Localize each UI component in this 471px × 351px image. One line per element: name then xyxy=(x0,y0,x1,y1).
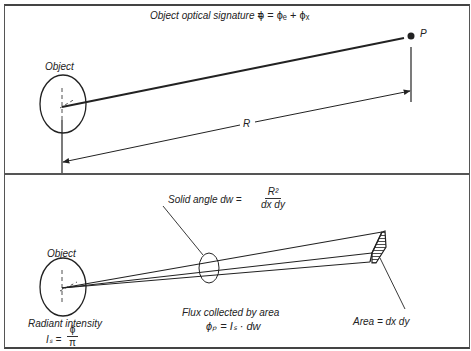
signature-equation: ϕ = ϕₑ + ϕₓ xyxy=(258,9,309,21)
radiant-fraction: ϕ π xyxy=(66,324,79,349)
signature-ray xyxy=(62,38,404,107)
flux-beam xyxy=(62,232,382,288)
area-label: Area = dx dy xyxy=(353,316,409,327)
distance-r-label: R xyxy=(243,118,250,129)
flux-equation: ϕₚ = Iₛ · dw xyxy=(206,320,261,333)
radiant-lhs: Iₛ = xyxy=(46,334,61,345)
signature-label: Object optical signature = xyxy=(150,10,263,21)
solid-angle-fraction: R² dx dy xyxy=(258,186,288,211)
top-object-label: Object xyxy=(45,61,74,72)
point-p-dot xyxy=(408,33,415,40)
bottom-object-label: Object xyxy=(47,248,76,259)
radiant-denominator: π xyxy=(66,337,79,349)
solid-angle-numerator: R² xyxy=(265,186,282,199)
radiant-numerator: ϕ xyxy=(67,324,79,337)
distance-arrow-right xyxy=(255,91,410,122)
distance-arrow-left xyxy=(63,125,240,162)
solid-angle-ellipse xyxy=(199,253,219,283)
diagram-drawing xyxy=(0,0,471,351)
flux-label: Flux collected by area xyxy=(182,307,279,318)
solid-angle-denominator: dx dy xyxy=(258,199,288,211)
area-leader xyxy=(380,258,405,309)
solid-angle-label: Solid angle dw = xyxy=(168,194,242,205)
point-p-label: P xyxy=(420,28,427,39)
radiant-intensity-label: Radiant intensity xyxy=(28,318,102,329)
solid-angle-leader xyxy=(163,206,203,255)
collecting-area xyxy=(372,231,386,263)
